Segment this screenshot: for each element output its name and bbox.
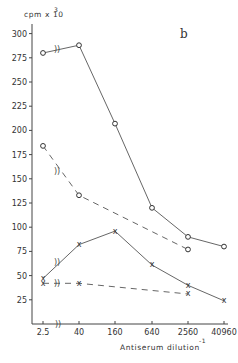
line-break-mark: )) [54,45,60,54]
data-point-circle [77,43,82,48]
y-tick-label: 200 [12,126,27,135]
series-line [43,283,188,294]
y-tick-label: 275 [12,54,27,63]
series-4: xxx)) [41,279,191,299]
data-point-cross: x [77,279,82,288]
data-point-cross: x [77,240,82,249]
series-line [43,231,224,301]
data-point-cross: x [222,296,227,305]
data-point-cross: x [41,279,46,288]
x-axis-title-superscript: -1 [199,337,206,344]
y-tick-label: 100 [12,223,27,232]
data-point-cross: x [186,289,191,298]
chart: 255075100125150175200225250275300 cpm x … [0,0,238,363]
y-tick-label: 250 [12,78,27,87]
series-2: )) [41,143,191,251]
x-axis: 2.540160640256040960 )) Antiserum diluti… [32,320,237,352]
data-point-cross: x [186,281,191,290]
data-point-circle [150,205,155,210]
x-axis-title: Antiserum dilution [120,343,200,352]
x-axis-break-mark: )) [55,320,61,329]
series-line [43,45,224,246]
y-tick-label: 125 [12,199,27,208]
data-point-circle [77,193,82,198]
y-tick-label: 300 [12,30,27,39]
line-break-mark: )) [54,258,60,267]
data-point-circle [186,234,191,239]
x-tick-label: 2560 [178,328,198,337]
series-1: )) [41,43,227,249]
data-point-circle [113,121,118,126]
data-point-circle [41,143,46,148]
x-ticks: 2.540160640256040960 [37,321,237,337]
series-layer: ))))xxxxxx))xxx)) [41,43,227,305]
line-break-mark: )) [54,167,60,176]
data-point-circle [186,247,191,252]
y-tick-label: 150 [12,175,27,184]
x-tick-label: 160 [107,328,122,337]
y-axis-title-superscript: 3 [54,6,58,13]
x-tick-label: 40 [74,328,84,337]
data-point-circle [222,244,227,249]
x-tick-label: 2.5 [37,328,50,337]
panel-label: b [180,27,188,41]
data-point-cross: x [113,227,118,236]
line-break-mark: )) [54,279,60,288]
y-tick-label: 50 [17,272,27,281]
y-tick-label: 225 [12,102,27,111]
y-tick-label: 75 [17,247,27,256]
y-ticks: 255075100125150175200225250275300 [12,30,32,305]
y-tick-label: 25 [17,296,27,305]
x-tick-label: 640 [144,328,159,337]
data-point-circle [41,51,46,56]
series-3: xxxxxx)) [41,227,227,306]
y-tick-label: 175 [12,151,27,160]
data-point-cross: x [150,260,155,269]
x-tick-label: 40960 [211,328,236,337]
